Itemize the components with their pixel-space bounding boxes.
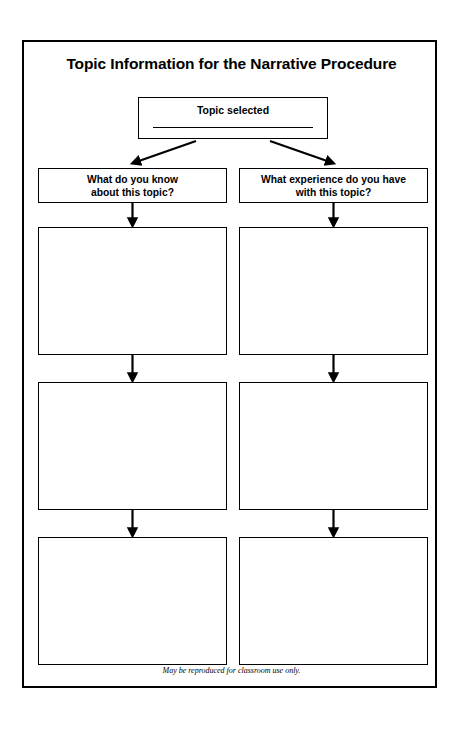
- answer-box-know-1[interactable]: [38, 227, 227, 355]
- page-title: Topic Information for the Narrative Proc…: [24, 55, 439, 73]
- question-label: What do you know about this topic?: [87, 173, 178, 199]
- topic-selected-write-line[interactable]: [153, 127, 313, 128]
- answer-box-experience-1[interactable]: [239, 227, 428, 355]
- topic-selected-label: Topic selected: [139, 104, 327, 116]
- answer-box-know-3[interactable]: [38, 537, 227, 665]
- topic-selected-box[interactable]: Topic selected: [138, 97, 328, 139]
- question-label: What experience do you have with this to…: [261, 173, 406, 199]
- question-box-what-you-know: What do you know about this topic?: [38, 168, 227, 203]
- answer-box-experience-3[interactable]: [239, 537, 428, 665]
- footer-reproduction-note: May be reproduced for classroom use only…: [24, 666, 439, 675]
- answer-box-know-2[interactable]: [38, 382, 227, 510]
- worksheet-page: Topic Information for the Narrative Proc…: [22, 40, 437, 688]
- question-box-what-experience: What experience do you have with this to…: [239, 168, 428, 203]
- answer-box-experience-2[interactable]: [239, 382, 428, 510]
